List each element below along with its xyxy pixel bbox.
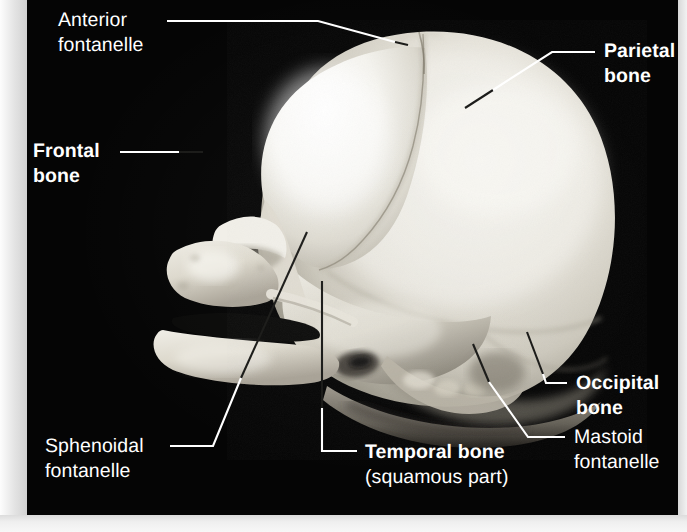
- skull-body: [154, 20, 647, 460]
- label-occipital-bone-line1: Occipital: [576, 371, 659, 396]
- label-anterior-fontanelle-line2: fontanelle: [58, 33, 144, 58]
- page-margin-left: [0, 0, 27, 532]
- label-mastoid-fontanelle-line2: fontanelle: [574, 450, 660, 475]
- label-frontal-bone-line2: bone: [33, 164, 100, 189]
- label-temporal-bone-subtitle: (squamous part): [365, 465, 508, 490]
- label-frontal-bone-line1: Frontal: [33, 139, 100, 164]
- label-occipital-bone-line2: bone: [576, 396, 659, 421]
- anatomy-figure: Anterior fontanelle Parietal bone Fronta…: [0, 0, 687, 532]
- label-occipital-bone: Occipital bone: [576, 371, 659, 420]
- label-mastoid-fontanelle-line1: Mastoid: [574, 425, 660, 450]
- label-anterior-fontanelle: Anterior fontanelle: [58, 8, 144, 57]
- label-frontal-bone: Frontal bone: [33, 139, 100, 188]
- label-sphenoidal-fontanelle-line2: fontanelle: [45, 459, 144, 484]
- label-parietal-bone: Parietal bone: [604, 39, 675, 88]
- label-parietal-bone-line1: Parietal: [604, 39, 675, 64]
- label-sphenoidal-fontanelle-line1: Sphenoidal: [45, 434, 144, 459]
- label-temporal-bone: Temporal bone (squamous part): [365, 440, 508, 489]
- photograph-plate: Anterior fontanelle Parietal bone Fronta…: [27, 0, 678, 515]
- label-temporal-bone-line1: Temporal bone: [365, 440, 508, 465]
- label-sphenoidal-fontanelle: Sphenoidal fontanelle: [45, 434, 144, 483]
- page-margin-right: [678, 0, 687, 532]
- page-margin-bottom: [0, 515, 687, 532]
- label-anterior-fontanelle-line1: Anterior: [58, 8, 144, 33]
- label-mastoid-fontanelle: Mastoid fontanelle: [574, 425, 660, 474]
- label-parietal-bone-line2: bone: [604, 64, 675, 89]
